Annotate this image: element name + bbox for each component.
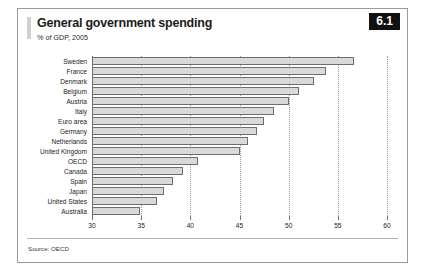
- title-accent-bar: [27, 17, 31, 39]
- category-label: Spain: [70, 178, 87, 185]
- source-note: Source: OECD: [28, 245, 69, 252]
- x-tick-label: 35: [137, 222, 144, 229]
- x-tick-label: 45: [236, 222, 243, 229]
- x-tick-label: 40: [187, 222, 194, 229]
- chart-row: Canada: [92, 167, 387, 175]
- chart-row: Belgium: [92, 87, 387, 95]
- category-label: France: [66, 68, 87, 75]
- x-tick-35: [141, 216, 142, 220]
- bar: [92, 147, 240, 155]
- chart-row: OECD: [92, 157, 387, 165]
- chart-row: Italy: [92, 107, 387, 115]
- x-tick-label: 50: [285, 222, 292, 229]
- chart-row: Australia: [92, 207, 387, 215]
- chart-row: Denmark: [92, 77, 387, 85]
- chart-row: United States: [92, 197, 387, 205]
- figure-subtitle: % of GDP, 2005: [37, 33, 88, 42]
- bar: [92, 137, 248, 145]
- bar: [92, 127, 257, 135]
- bar: [92, 97, 289, 105]
- x-tick-label: 30: [88, 222, 95, 229]
- chart-plot-area: SwedenFranceDenmarkBelgiumAustriaItalyEu…: [92, 56, 387, 216]
- x-tick-60: [387, 216, 388, 220]
- category-label: Italy: [75, 108, 87, 115]
- x-tick-45: [240, 216, 241, 220]
- x-tick-50: [289, 216, 290, 220]
- x-tick-55: [338, 216, 339, 220]
- category-label: Denmark: [60, 78, 87, 85]
- figure-panel: General government spending % of GDP, 20…: [17, 8, 408, 263]
- bar: [92, 57, 354, 65]
- x-tick-label: 60: [383, 222, 390, 229]
- category-label: OECD: [68, 158, 87, 165]
- chart-row: France: [92, 67, 387, 75]
- category-label: Netherlands: [51, 138, 87, 145]
- category-label: United Kingdom: [40, 148, 87, 155]
- bar: [92, 77, 314, 85]
- chart-row: Austria: [92, 97, 387, 105]
- category-label: Austria: [66, 98, 87, 105]
- figure-header: General government spending % of GDP, 20…: [18, 9, 407, 51]
- bar: [92, 207, 140, 215]
- page-title: General government spending: [37, 16, 212, 30]
- bar: [92, 107, 274, 115]
- category-label: Australia: [61, 208, 87, 215]
- bar: [92, 177, 173, 185]
- chart-row: Germany: [92, 127, 387, 135]
- category-label: United States: [47, 198, 87, 205]
- category-label: Euro area: [58, 118, 87, 125]
- figure-number-badge: 6.1: [369, 13, 400, 30]
- x-tick-30: [92, 216, 93, 220]
- chart-row: Sweden: [92, 57, 387, 65]
- bar: [92, 87, 299, 95]
- category-label: Sweden: [63, 58, 87, 65]
- category-label: Belgium: [63, 88, 87, 95]
- category-label: Germany: [60, 128, 87, 135]
- chart-row: United Kingdom: [92, 147, 387, 155]
- x-tick-40: [190, 216, 191, 220]
- x-axis: 30354045505560: [92, 216, 387, 236]
- chart-row: Spain: [92, 177, 387, 185]
- bar: [92, 187, 164, 195]
- gridline-60: [387, 56, 389, 216]
- footer-divider: [27, 238, 398, 239]
- x-tick-label: 55: [334, 222, 341, 229]
- chart-row: Netherlands: [92, 137, 387, 145]
- bar: [92, 67, 326, 75]
- category-label: Japan: [69, 188, 87, 195]
- bar: [92, 167, 183, 175]
- bar: [92, 157, 198, 165]
- category-label: Canada: [64, 168, 87, 175]
- bar: [92, 117, 264, 125]
- chart-row: Japan: [92, 187, 387, 195]
- bar: [92, 197, 157, 205]
- chart-row: Euro area: [92, 117, 387, 125]
